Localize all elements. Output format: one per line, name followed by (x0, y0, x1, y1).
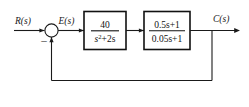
feedback-arrowhead-icon (49, 37, 53, 42)
feedback-entry-group (49, 37, 53, 80)
compensator-block: 0.5s+1 0.05s+1 (144, 12, 190, 50)
interstage-wire-group (126, 28, 144, 32)
block-diagram-figure: 40 s2+2s 0.5s+1 0.05s+1 (0, 0, 249, 107)
svg-text:s2+2s: s2+2s (95, 33, 116, 44)
output-signal-label: C(s) (213, 14, 229, 25)
summing-junction-minus-sign: – (40, 34, 47, 46)
plant-block: 40 s2+2s (84, 12, 126, 50)
input-signal-label: R(s) (14, 16, 31, 27)
plant-block-numerator: 40 (100, 20, 110, 30)
summing-junction-circle (45, 24, 58, 37)
output-wire-group (190, 28, 240, 80)
error-wire-group (58, 28, 84, 32)
compensator-block-numerator: 0.5s+1 (154, 20, 180, 30)
compensator-block-denominator: 0.05s+1 (152, 34, 183, 44)
summing-junction (45, 24, 58, 37)
input-arrowhead-icon (39, 28, 44, 32)
input-wire-group (14, 28, 45, 32)
output-arrowhead-icon (234, 28, 240, 33)
plant-denominator-tail: +2s (102, 34, 116, 44)
block-diagram-canvas: 40 s2+2s 0.5s+1 0.05s+1 (0, 0, 249, 107)
error-signal-label: E(s) (58, 16, 75, 27)
